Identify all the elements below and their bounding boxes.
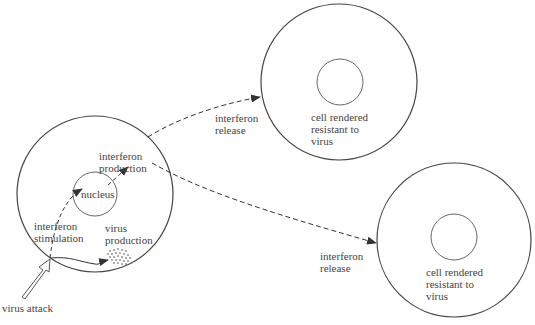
- virus-attack-arrow: [22, 259, 50, 299]
- label-line: release: [320, 262, 363, 274]
- label-line: interferon: [320, 250, 363, 262]
- label-line: interferon: [99, 150, 147, 162]
- label-line: resistant to: [426, 278, 483, 290]
- label-line: production: [105, 234, 153, 246]
- label-line: cell rendered: [426, 266, 483, 278]
- label-line: virus: [105, 222, 153, 234]
- resistant-cell-bottom-label: cell rendered resistant to virus: [426, 266, 483, 302]
- label-line: cell rendered: [311, 111, 368, 123]
- virus-production-label: virus production: [105, 222, 153, 246]
- label-line: virus: [426, 290, 483, 302]
- label-line: virus: [311, 135, 368, 147]
- interferon-release-top-label: interferon release: [215, 112, 258, 136]
- nucleus-label: nucleus: [81, 188, 115, 200]
- virus-particles: [107, 248, 131, 265]
- resistant-cell-top-label: cell rendered resistant to virus: [311, 111, 368, 147]
- label-line: resistant to: [311, 123, 368, 135]
- interferon-production-label: interferon production: [99, 150, 147, 174]
- label-line: interferon: [34, 220, 84, 232]
- resistant-cell-top-nucleus: [317, 59, 363, 105]
- label-line: interferon: [215, 112, 258, 124]
- resistant-cell-bottom-nucleus: [431, 214, 477, 260]
- label-line: release: [215, 124, 258, 136]
- virus-attack-label: virus attack: [2, 302, 53, 314]
- interferon-release-bottom-label: interferon release: [320, 250, 363, 274]
- interferon-stimulation-label: interferon stimulation: [34, 220, 84, 244]
- label-line: stimulation: [34, 232, 84, 244]
- label-line: production: [99, 162, 147, 174]
- release-arrow-bottom: [152, 163, 376, 243]
